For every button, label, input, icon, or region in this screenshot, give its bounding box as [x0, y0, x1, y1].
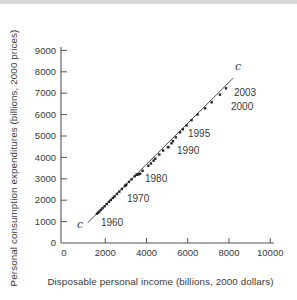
x-axis-title: Disposable personal income (billions, 20…: [24, 276, 297, 288]
data-point-1971: [118, 190, 120, 192]
y-axis-title: Personal consumption expenditures (billi…: [8, 18, 20, 298]
consumption-function-figure: 0200040006000800010000010002000300040005…: [0, 0, 297, 300]
fit-line-label-c-bottom: c: [77, 218, 83, 231]
x-axis-ticks: 0200040006000800010000: [61, 238, 283, 258]
year-label-2003: 2003: [234, 87, 257, 98]
data-point-1970: [116, 193, 118, 195]
data-point-1985: [150, 162, 152, 164]
data-point-1996: [182, 128, 184, 130]
data-point-1965: [105, 203, 107, 205]
year-label-2000: 2000: [231, 101, 254, 112]
year-label-1960: 1960: [101, 217, 124, 228]
data-point-1967: [110, 199, 112, 201]
y-axis-ticks: 0100020003000400050006000700080009000: [35, 45, 67, 249]
data-point-1976: [128, 181, 130, 183]
y-tick-label: 3000: [35, 173, 56, 184]
data-point-1983: [141, 170, 143, 172]
x-tick-label: 6000: [177, 247, 198, 258]
y-tick-label: 9000: [35, 45, 56, 56]
fit-line-label-c-top: c: [235, 60, 241, 73]
year-labels: 1960197019801990199520002003: [101, 87, 257, 228]
y-tick-label: 7000: [35, 87, 56, 98]
data-point-1977: [130, 178, 132, 180]
data-point-1987: [154, 157, 156, 159]
y-tick-label: 1000: [35, 216, 56, 227]
scatter-points: [96, 87, 227, 215]
data-point-1992: [170, 142, 172, 144]
data-point-1995: [179, 131, 181, 133]
data-point-1984: [147, 165, 149, 167]
year-label-1980: 1980: [145, 173, 168, 184]
data-point-1991: [167, 146, 169, 148]
data-point-1963: [101, 207, 103, 209]
data-point-1993: [172, 140, 174, 142]
data-point-2002: [219, 93, 221, 95]
data-point-2000: [204, 107, 206, 109]
y-tick-label: 5000: [35, 130, 56, 141]
x-tick-label: 2000: [95, 247, 116, 258]
year-label-1970: 1970: [127, 193, 150, 204]
data-point-2001: [210, 101, 212, 103]
data-point-1998: [190, 119, 192, 121]
x-tick-label: 4000: [136, 247, 157, 258]
data-point-1964: [103, 205, 105, 207]
data-point-1972: [121, 188, 123, 190]
data-point-2003: [225, 87, 227, 89]
data-point-1999: [196, 113, 198, 115]
x-tick-label: 0: [61, 247, 66, 258]
y-tick-label: 8000: [35, 66, 56, 77]
scatter-plot: 0200040006000800010000010002000300040005…: [0, 0, 297, 300]
data-point-1982: [139, 172, 141, 174]
x-tick-label: 8000: [218, 247, 239, 258]
y-tick-label: 0: [51, 237, 56, 248]
y-tick-label: 2000: [35, 194, 56, 205]
data-point-1988: [158, 153, 160, 155]
axes: [61, 47, 274, 243]
data-point-1997: [185, 124, 187, 126]
x-tick-label: 10000: [257, 247, 283, 258]
data-point-1969: [113, 195, 115, 197]
year-label-1995: 1995: [188, 128, 211, 139]
data-point-1989: [162, 149, 164, 151]
data-point-1975: [125, 183, 127, 185]
y-tick-label: 4000: [35, 152, 56, 163]
data-point-1994: [175, 136, 177, 138]
y-tick-label: 6000: [35, 109, 56, 120]
year-label-1990: 1990: [177, 145, 200, 156]
